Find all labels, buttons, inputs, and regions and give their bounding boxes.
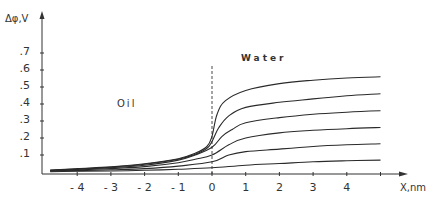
y-tick-label: .1: [4, 148, 30, 159]
x-tick-label: 2: [269, 182, 289, 193]
series-line: [50, 94, 380, 171]
chart-canvas: [0, 0, 433, 202]
axes: [40, 11, 409, 177]
water-region-label: Water: [241, 54, 287, 63]
y-tick-label: .4: [4, 97, 30, 108]
x-tick-label: 4: [337, 182, 357, 193]
x-axis-label: X,nm: [400, 183, 426, 193]
x-tick-label: 0: [202, 182, 222, 193]
y-tick-label: .5: [4, 80, 30, 91]
x-tick-label: - 2: [135, 182, 155, 193]
y-axis-label: Δφ,V: [5, 14, 28, 24]
x-tick-label: 3: [303, 182, 323, 193]
curves: [50, 77, 380, 172]
x-tick-label: - 4: [67, 182, 87, 193]
x-tick-label: - 3: [101, 182, 121, 193]
x-tick-label: 1: [236, 182, 256, 193]
y-tick-label: .3: [4, 114, 30, 125]
series-line: [50, 77, 380, 170]
oil-region-label: Oil: [117, 99, 136, 109]
x-tick-label: - 1: [168, 182, 188, 193]
y-tick-label: .2: [4, 131, 30, 142]
y-tick-label: .7: [4, 46, 30, 57]
y-tick-label: .6: [4, 63, 30, 74]
